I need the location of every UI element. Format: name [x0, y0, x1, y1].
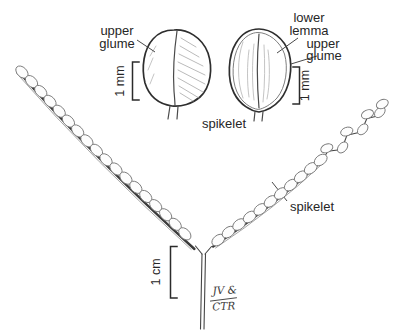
scale-label: 1 mm — [298, 70, 312, 101]
stem — [201, 254, 206, 329]
spikelet-bead — [360, 108, 375, 121]
signature-line2: CTR — [212, 299, 236, 312]
label-spikelet-top: spikelet — [202, 116, 246, 131]
spikelet-bead — [355, 122, 370, 137]
artist-signature: JV & CTR — [209, 283, 238, 312]
enlarged-spikelet-right — [229, 29, 290, 121]
spikelet-bead — [339, 125, 354, 137]
label-spikelet-branch: spikelet — [290, 199, 334, 214]
spikelet-bead — [319, 142, 334, 155]
spikelet-stalk — [168, 106, 178, 119]
enlarged-spikelet-left — [143, 30, 210, 119]
signature-line1: JV & — [210, 283, 237, 296]
scale-bar-bottom-cm: 1 cm — [149, 247, 177, 299]
scale-bracket — [171, 247, 178, 299]
scale-label: 1 cm — [149, 258, 163, 285]
scale-label: 1 mm — [113, 65, 127, 96]
spikelet-stalk — [254, 112, 263, 122]
spikelet-bead — [335, 140, 350, 155]
branch-junction — [196, 246, 212, 254]
scale-bracket — [133, 62, 140, 100]
botanical-illustration: upper glume lower lemma upper glume spik… — [0, 0, 399, 331]
label-upper-glume-right-line2: glume — [306, 48, 341, 63]
spikelet-outline — [143, 30, 210, 106]
scale-bar-right-mm: 1 mm — [293, 67, 312, 104]
label-upper-glume-left-line2: glume — [99, 36, 134, 51]
scale-bar-left-mm: 1 mm — [113, 62, 139, 100]
figure-canvas: upper glume lower lemma upper glume spik… — [0, 0, 399, 331]
